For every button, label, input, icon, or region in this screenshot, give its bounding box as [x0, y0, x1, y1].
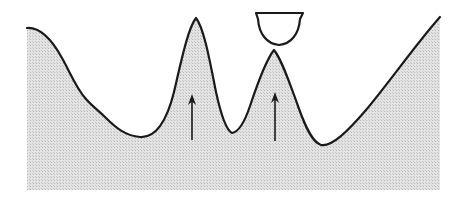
terrain-diagram: [0, 0, 463, 199]
figure-container: [0, 0, 463, 199]
